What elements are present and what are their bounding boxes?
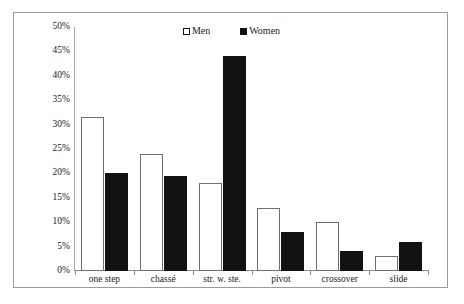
bar-group — [134, 27, 193, 271]
y-axis-tick-label: 25% — [53, 144, 70, 154]
y-axis-tick-label: 30% — [53, 120, 70, 130]
bar-women[interactable] — [223, 56, 246, 271]
bar-women[interactable] — [164, 176, 187, 271]
plot-area — [75, 27, 428, 271]
plot-wrapper: 50%45%40%35%30%25%20%15%10%5%0% — [45, 27, 428, 271]
y-axis-tick-label: 10% — [53, 217, 70, 227]
bar-men[interactable] — [140, 154, 163, 271]
bar-women[interactable] — [399, 242, 422, 271]
x-axis-category-label: crossover — [322, 275, 358, 285]
bar-men[interactable] — [257, 208, 280, 271]
x-axis-category-labels: one stepchasséstr. w. ste.pivotcrossover… — [75, 275, 428, 295]
y-axis-tick-label: 40% — [53, 71, 70, 81]
x-axis-category-label: chassé — [151, 275, 176, 285]
bar-women[interactable] — [281, 232, 304, 271]
bar-pair — [252, 27, 311, 271]
bar-pair — [75, 27, 134, 271]
x-axis-category-label: pivot — [271, 275, 291, 285]
y-axis-tick-label: 45% — [53, 47, 70, 57]
x-axis-tick-mark — [428, 270, 429, 275]
bar-group — [193, 27, 252, 271]
bar-group — [252, 27, 311, 271]
bar-men[interactable] — [316, 222, 339, 271]
bar-pair — [369, 27, 428, 271]
chart-frame: Men Women 50%45%40%35%30%25%20%15%10%5%0… — [13, 12, 448, 288]
x-axis-category-label: one step — [89, 275, 120, 285]
x-axis-category-label: slide — [390, 275, 408, 285]
y-axis-tick-label: 50% — [53, 22, 70, 32]
bar-pair — [193, 27, 252, 271]
y-axis-tick-label: 20% — [53, 169, 70, 179]
bar-group — [369, 27, 428, 271]
y-axis-tick-label: 15% — [53, 193, 70, 203]
bar-women[interactable] — [340, 251, 363, 271]
y-axis-tick-labels: 50%45%40%35%30%25%20%15%10%5%0% — [45, 27, 74, 271]
bar-men[interactable] — [199, 183, 222, 271]
x-axis-category-label: str. w. ste. — [203, 275, 241, 285]
bar-pair — [134, 27, 193, 271]
bar-group — [75, 27, 134, 271]
y-axis-tick-label: 0% — [57, 266, 70, 276]
bar-group — [310, 27, 369, 271]
bar-women[interactable] — [105, 173, 128, 271]
bar-men[interactable] — [375, 256, 398, 271]
chart-figure: Men Women 50%45%40%35%30%25%20%15%10%5%0… — [0, 0, 464, 304]
bar-men[interactable] — [81, 117, 104, 271]
y-axis-tick-label: 5% — [57, 242, 70, 252]
bar-pair — [310, 27, 369, 271]
y-axis-tick-label: 35% — [53, 95, 70, 105]
